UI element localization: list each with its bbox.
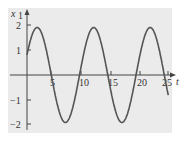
chart: x 1 t 2 1 −1 −2 5 10 15 20 25 [0, 0, 190, 142]
y-tick-label: 1 [16, 45, 21, 56]
y-axis-label: x [10, 8, 16, 19]
x-axis-label: t [176, 76, 179, 87]
y-tick-label: 2 [16, 20, 21, 31]
x-tick-label: 20 [137, 77, 147, 88]
x-tick-label: 10 [79, 77, 89, 88]
y-tick-label: −1 [10, 95, 21, 106]
y-tick-label: −2 [10, 119, 21, 130]
plot-panel [8, 8, 172, 133]
